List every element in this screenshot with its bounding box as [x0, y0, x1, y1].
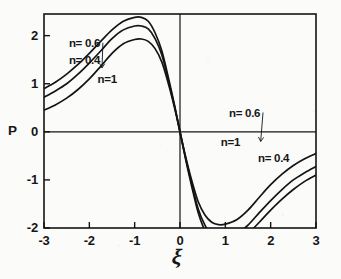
leader-line-right-n06 — [261, 113, 263, 142]
y-tick-label: -1 — [10, 173, 38, 186]
x-tick-label: 2 — [257, 234, 285, 247]
annotation-leader-lines — [100, 43, 264, 142]
x-tick-label: 3 — [302, 234, 330, 247]
x-tick-label: -2 — [75, 234, 103, 247]
x-axis-ticks — [44, 222, 316, 228]
y-tick-label: 2 — [10, 29, 38, 42]
figure-container: -3-2-10123210-1-2n= 0.6n= 0.4n=1n= 0.6n=… — [0, 0, 341, 279]
y-axis-label: P — [8, 124, 17, 138]
curve-label-left-n04: n= 0.4 — [69, 55, 100, 67]
x-tick-label: 1 — [211, 234, 239, 247]
x-tick-label: -3 — [30, 234, 58, 247]
x-tick-label: -1 — [121, 234, 149, 247]
curve-label-right-n04: n= 0.4 — [258, 153, 289, 165]
y-axis-ticks — [44, 36, 50, 228]
curve-label-right-n1: n=1 — [221, 137, 240, 149]
curve-label-left-n06: n= 0.6 — [69, 38, 100, 50]
y-tick-label: 1 — [10, 77, 38, 90]
curve-label-left-n1: n=1 — [98, 74, 117, 86]
curve-label-right-n06: n= 0.6 — [229, 108, 260, 120]
y-tick-label: -2 — [10, 221, 38, 234]
